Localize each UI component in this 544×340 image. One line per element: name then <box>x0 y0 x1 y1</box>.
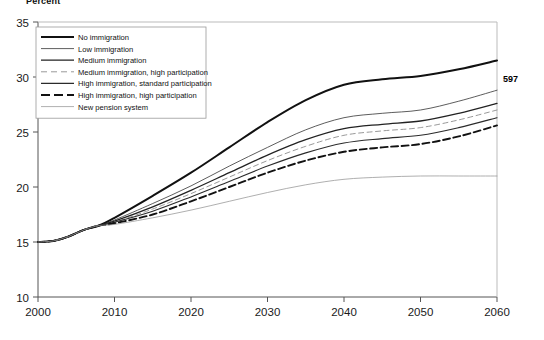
legend-item-label: High immigration, standard participation <box>78 79 212 88</box>
legend-item-label: Medium immigration, high participation <box>78 68 208 77</box>
legend-layer: No immigrationLow immigrationMedium immi… <box>36 27 212 118</box>
y-axis-tick-label: 30 <box>16 72 29 84</box>
line-chart-plot: 1015202530352000201020202030204020502060… <box>0 0 544 340</box>
y-axis-tick-label: 25 <box>16 127 29 139</box>
y-axis-tick-label: 20 <box>16 182 29 194</box>
chart-figure: Percent 597 1015202530352000201020202030… <box>0 0 544 340</box>
x-axis-tick-label: 2030 <box>255 306 281 318</box>
y-axis-tick-label: 10 <box>16 292 29 304</box>
x-axis-tick-label: 2040 <box>331 306 357 318</box>
x-axis-tick-label: 2020 <box>178 306 204 318</box>
x-axis-tick-label: 2050 <box>408 306 434 318</box>
x-axis-tick-label: 2000 <box>25 306 51 318</box>
legend-item-label: Low immigration <box>78 45 133 54</box>
legend-item-label: No immigration <box>78 33 129 42</box>
legend-item-label: New pension system <box>78 103 148 112</box>
legend-item-label: Medium immigration <box>78 56 146 65</box>
y-axis-tick-label: 35 <box>16 17 29 29</box>
x-axis-tick-label: 2060 <box>484 306 510 318</box>
legend-item-label: High immigration, high participation <box>78 91 197 100</box>
x-axis-tick-label: 2010 <box>102 306 128 318</box>
series-line <box>38 176 497 242</box>
y-axis-tick-label: 15 <box>16 237 29 249</box>
